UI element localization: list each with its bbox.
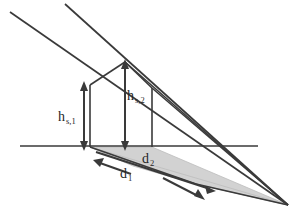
sun-ray-group [10,4,288,205]
diagram-canvas: h s,1 h s,2 d 2 d 1 [0,0,303,218]
label-d1-base: d [120,166,127,181]
shadow-geometry-figure: h s,1 h s,2 d 2 d 1 [0,0,303,218]
h-s1-arrowhead-top [80,81,88,91]
building-roof-left-slope [90,62,125,85]
label-h-s1-base: h [58,109,65,124]
d1-arrowhead-right [194,189,205,200]
label-h-s2-base: h [127,88,134,103]
sun-ray-lower [10,12,288,205]
label-group: h s,1 h s,2 d 2 d 1 [58,88,154,183]
label-h-s1-subscript: s,1 [66,116,76,126]
label-d1-subscript: 1 [128,173,132,183]
height-dimension-low-group [80,81,88,151]
height-dimension-high-group [121,59,129,151]
label-d2-base: d [142,151,149,166]
label-d2-subscript: 2 [150,158,154,168]
label-h-s2-subscript: s,2 [135,95,145,105]
d1-arrowhead-left [93,158,104,167]
